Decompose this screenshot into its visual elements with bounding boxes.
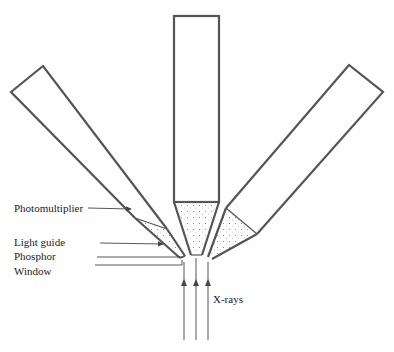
center-photomultiplier — [174, 16, 219, 255]
label-window: Window — [14, 266, 51, 277]
label-xrays: X-rays — [213, 294, 243, 305]
label-phosphor: Phosphor — [14, 251, 56, 262]
light-guide-leader — [100, 243, 163, 244]
left-photomultiplier — [11, 66, 185, 258]
label-photomultiplier: Photomultiplier — [14, 203, 83, 214]
right-photomultiplier — [208, 65, 383, 259]
detector-diagram — [0, 0, 394, 352]
label-light-guide: Light guide — [14, 237, 65, 248]
xray-beams — [184, 258, 208, 340]
window-leader — [95, 260, 182, 265]
